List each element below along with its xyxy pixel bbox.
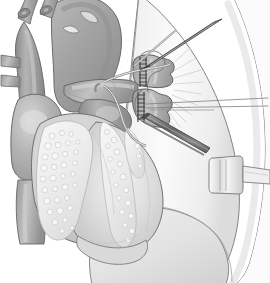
illustration-canvas — [0, 0, 270, 283]
surgical-illustration-figure: Intrapericardial dissection of pulmonary… — [0, 0, 270, 283]
azygos-branch-lower — [1, 75, 20, 87]
inferior-vena-cava-highlight — [25, 184, 27, 242]
